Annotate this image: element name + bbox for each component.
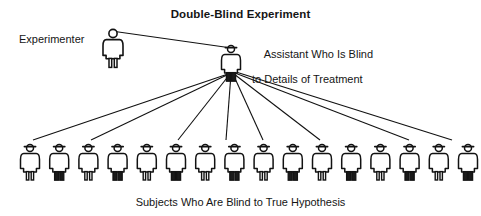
subject-figure [21,145,40,181]
subject-figure [283,145,302,181]
page-title: Double-Blind Experiment [0,8,481,21]
subject-figure [400,145,419,181]
links-assistant-subjects [33,72,452,140]
link-to-subject-1 [33,74,228,140]
assistant-label: Assistant Who Is Blind to Details of Tre… [252,35,373,110]
subject-figure [459,145,478,181]
subject-figure [342,145,361,181]
experimenter-label: Experimenter [19,33,84,46]
link-experimenter-assistant [115,32,228,48]
subjects-row [21,145,478,181]
subject-figure [79,145,98,181]
assistant-label-line2: to Details of Treatment [252,73,373,86]
subject-figure [167,145,186,181]
subject-figure [254,145,273,181]
subject-figure [108,145,127,181]
experimenter-figure [103,29,123,67]
subject-figure [225,145,244,181]
double-blind-experiment-diagram: Double-Blind Experiment Experimenter Ass… [0,0,481,216]
subject-figure [137,145,156,181]
subject-figure [371,145,390,181]
subject-figure [313,145,332,181]
link-to-subject-3 [91,74,229,140]
link-to-subject-8 [226,74,231,140]
link-to-subject-6 [178,74,230,140]
assistant-label-line1: Assistant Who Is Blind [264,48,373,60]
subject-figure [50,145,69,181]
subject-figure [196,145,215,181]
subject-figure [429,145,448,181]
subjects-caption: Subjects Who Are Blind to True Hypothesi… [0,196,481,209]
